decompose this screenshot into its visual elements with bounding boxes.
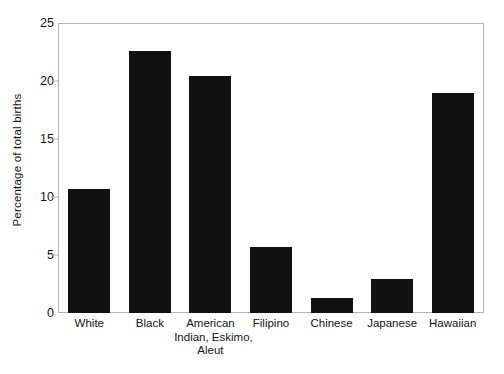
bars-container: [59, 24, 483, 313]
x-axis-tick-label: Hawaiian: [416, 317, 489, 331]
bar: [311, 298, 353, 313]
bar: [432, 93, 474, 313]
y-axis-tick-mark: [51, 139, 59, 140]
y-axis-tick-label: 25: [40, 17, 54, 30]
bar-chart-figure: Percentage of total births 0510152025 Wh…: [0, 0, 504, 374]
bar: [68, 189, 110, 313]
y-axis-tick-labels: 0510152025: [24, 0, 54, 374]
y-axis-tick-mark: [51, 81, 59, 82]
bar: [371, 279, 413, 313]
bar: [129, 51, 171, 313]
y-axis-tick-mark: [51, 197, 59, 198]
bar: [250, 247, 292, 313]
y-axis-tick-mark: [51, 255, 59, 256]
x-axis-tick-labels: WhiteBlackAmericanIndian, Eskimo,AleutFi…: [59, 317, 483, 374]
y-axis-title-text: Percentage of total births: [11, 93, 23, 226]
bar: [189, 76, 231, 313]
